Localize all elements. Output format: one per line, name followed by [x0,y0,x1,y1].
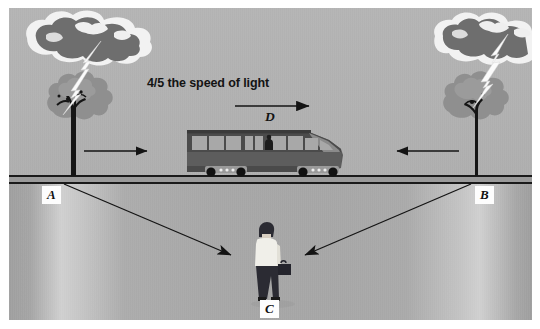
diagram-scene: 4/5 the speed of light D A B C [9,8,532,320]
speed-caption: 4/5 the speed of light [147,76,269,90]
point-label-b: B [475,186,494,204]
point-label-a: A [42,186,61,204]
train-label-d: D [265,109,275,125]
physics-diagram-figure: 4/5 the speed of light D A B C [0,0,540,329]
sky-background [9,8,532,178]
rail-line-bottom [9,182,532,184]
rail-line-top [9,175,532,177]
point-label-c: C [260,300,279,318]
